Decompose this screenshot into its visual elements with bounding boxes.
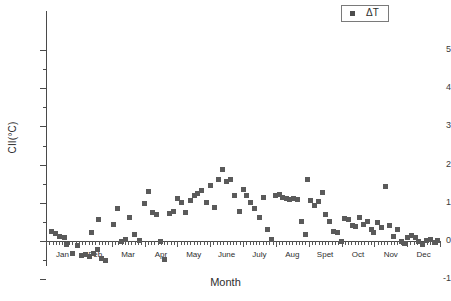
scatter-point: [137, 238, 142, 243]
scatter-point: [75, 243, 80, 248]
scatter-point: [261, 195, 266, 200]
scatter-point: [237, 209, 242, 214]
scatter-point: [158, 239, 163, 244]
scatter-point: [154, 212, 159, 217]
scatter-point: [91, 251, 96, 256]
scatter-point: [244, 193, 249, 198]
scatter-points-layer: [0, 0, 451, 301]
scatter-point: [248, 200, 253, 205]
scatter-point: [162, 257, 167, 262]
scatter-point: [346, 217, 351, 222]
scatter-point: [62, 235, 67, 240]
scatter-point: [115, 206, 120, 211]
scatter-point: [353, 224, 358, 229]
scatter-point: [335, 230, 340, 235]
scatter-point: [365, 219, 370, 224]
scatter-point: [171, 209, 176, 214]
scatter-point: [303, 232, 308, 237]
scatter-point: [95, 247, 100, 252]
scatter-point: [323, 212, 328, 217]
scatter-point: [127, 215, 132, 220]
scatter-point: [379, 225, 384, 230]
scatter-point: [320, 190, 325, 195]
scatter-point: [371, 230, 376, 235]
scatter-point: [220, 167, 225, 172]
scatter-point: [96, 217, 101, 222]
scatter-point: [383, 184, 388, 189]
scatter-point: [299, 219, 304, 224]
scatter-point: [64, 242, 69, 247]
legend: ΔT: [341, 5, 389, 22]
chart-figure: -1012345 CII(°C) JanFebMarAprMayJuneJuly…: [0, 0, 451, 301]
scatter-point: [228, 177, 233, 182]
scatter-point: [316, 199, 321, 204]
legend-label: ΔT: [366, 8, 379, 18]
scatter-point: [252, 206, 257, 211]
scatter-point: [146, 189, 151, 194]
scatter-point: [265, 227, 270, 232]
scatter-point: [339, 239, 344, 244]
scatter-point: [208, 183, 213, 188]
scatter-point: [188, 198, 193, 203]
scatter-point: [269, 237, 274, 242]
scatter-point: [204, 200, 209, 205]
scatter-point: [132, 232, 137, 237]
legend-marker-icon: [350, 11, 355, 16]
scatter-point: [357, 215, 362, 220]
scatter-point: [111, 222, 116, 227]
scatter-point: [402, 241, 407, 246]
scatter-point: [391, 234, 396, 239]
scatter-point: [123, 237, 128, 242]
scatter-point: [387, 223, 392, 228]
scatter-point: [435, 238, 440, 243]
scatter-point: [295, 197, 300, 202]
scatter-point: [179, 200, 184, 205]
scatter-point: [241, 187, 246, 192]
scatter-point: [327, 219, 332, 224]
scatter-point: [395, 227, 400, 232]
scatter-point: [103, 258, 108, 263]
scatter-point: [257, 215, 262, 220]
scatter-point: [305, 177, 310, 182]
scatter-point: [199, 188, 204, 193]
scatter-point: [183, 210, 188, 215]
scatter-point: [232, 193, 237, 198]
scatter-point: [212, 205, 217, 210]
scatter-point: [420, 242, 425, 247]
scatter-point: [70, 251, 75, 256]
scatter-point: [216, 177, 221, 182]
scatter-point: [89, 230, 94, 235]
scatter-point: [142, 201, 147, 206]
